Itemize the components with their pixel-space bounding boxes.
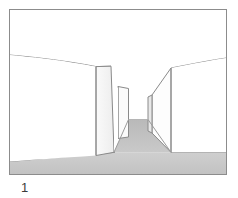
- figure-caption-number: 1: [21, 180, 28, 195]
- perspective-corridor-illustration: 1: [0, 0, 238, 198]
- right-wall-far-panel: [148, 95, 152, 133]
- left-wall-near-panel: [96, 66, 114, 155]
- right-wall-face: [171, 58, 227, 152]
- figure-container: 1: [0, 0, 238, 198]
- scene-group: [10, 10, 227, 175]
- left-wall-face: [10, 55, 97, 162]
